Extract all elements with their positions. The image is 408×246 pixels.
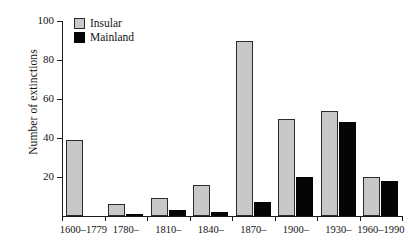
bar-insular [66, 140, 83, 216]
extinctions-bar-chart: Number of extinctions InsularMainland 20… [0, 0, 408, 246]
bar-insular [278, 119, 295, 217]
bar-insular [236, 41, 253, 217]
x-axis-tick [360, 216, 361, 221]
bar-mainland [254, 202, 271, 216]
y-axis-tick-label: 60 [43, 92, 54, 104]
x-axis-tick [190, 216, 191, 221]
x-axis-tick [317, 216, 318, 221]
bar-mainland [296, 177, 313, 216]
bar-insular [363, 177, 380, 216]
x-axis-tick [105, 216, 106, 221]
bar-mainland [381, 181, 398, 216]
y-axis-tick: 60 [57, 99, 62, 100]
y-axis-tick: 80 [57, 60, 62, 61]
x-axis-tick [147, 216, 148, 221]
y-axis-tick: 100 [57, 21, 62, 22]
y-axis-tick-label: 40 [43, 131, 54, 143]
bar-insular [108, 204, 125, 216]
y-axis-title: Number of extinctions [27, 22, 39, 182]
y-axis-tick-label: 80 [43, 53, 54, 65]
bar-insular [321, 111, 338, 216]
y-axis-tick-label: 100 [38, 14, 55, 26]
bar-insular [193, 185, 210, 216]
bar-insular [151, 198, 168, 216]
y-axis-tick-label: 20 [43, 170, 54, 182]
y-axis-tick: 40 [57, 138, 62, 139]
x-axis-category-label: 1960–1990 [346, 224, 408, 235]
x-axis-tick [402, 216, 403, 221]
x-axis-tick [275, 216, 276, 221]
y-axis-line [62, 21, 63, 216]
y-axis-tick: 20 [57, 177, 62, 178]
bar-mainland [211, 212, 228, 216]
plot-area: 20406080100 1600–17791780–1810–1840–1870… [62, 21, 402, 216]
x-axis-tick [232, 216, 233, 221]
bar-mainland [126, 214, 143, 216]
x-axis-tick [62, 216, 63, 221]
bar-mainland [339, 122, 356, 216]
bar-mainland [169, 210, 186, 216]
